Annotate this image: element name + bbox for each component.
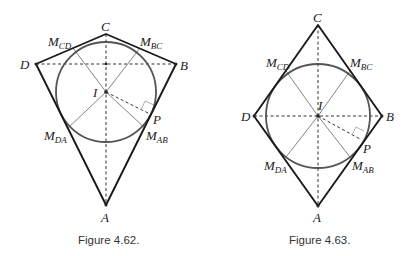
label-a: A [100,210,109,225]
point-i [104,90,108,94]
label-m-ab: MAB [351,158,374,175]
label-d: D [19,57,30,72]
point-diag-intersection [105,63,108,66]
right-angle-marker [141,101,154,110]
label-a: A [312,210,321,225]
figure-4-63: C D B A I P MCD MBC MDA MAB Figure 4.63. [240,10,394,246]
radius-mbc [106,48,140,92]
label-d: D [240,109,251,124]
right-angle-marker [352,127,364,135]
point-d [35,63,38,66]
caption-figure-4-62: Figure 4.62. [78,234,139,246]
label-p: P [152,112,161,127]
label-m-cd: MCD [265,55,290,72]
label-m-da: MDA [263,158,287,175]
radius-mcd [286,71,318,116]
segment-ip [106,92,148,113]
caption-figure-4-63: Figure 4.63. [289,234,350,246]
label-b: B [386,109,394,124]
point-b [381,115,384,118]
label-c: C [313,10,322,25]
radius-mcd [73,48,106,92]
figure-4-62: C D B A I P MCD MBC MDA MAB Figure 4.62. [19,19,188,246]
label-m-bc: MBC [139,34,163,51]
radius-mab [106,92,145,128]
diagram-canvas: C D B A I P MCD MBC MDA MAB Figure 4.62.… [0,0,413,256]
label-b: B [180,58,188,73]
label-m-cd: MCD [47,34,72,51]
label-m-ab: MAB [145,128,168,145]
label-i: I [92,85,98,100]
point-i [316,114,320,118]
label-c: C [101,19,110,34]
label-p: P [362,141,371,156]
label-m-bc: MBC [349,55,373,72]
point-a [105,204,108,207]
radius-mbc [318,71,350,116]
radius-mab [318,116,350,157]
radius-mda [68,92,106,128]
label-i: I [317,98,323,113]
point-b [175,63,178,66]
point-a [317,205,320,208]
label-m-da: MDA [43,128,67,145]
radius-mda [286,116,318,157]
segment-ip [318,116,360,139]
point-d [253,115,256,118]
